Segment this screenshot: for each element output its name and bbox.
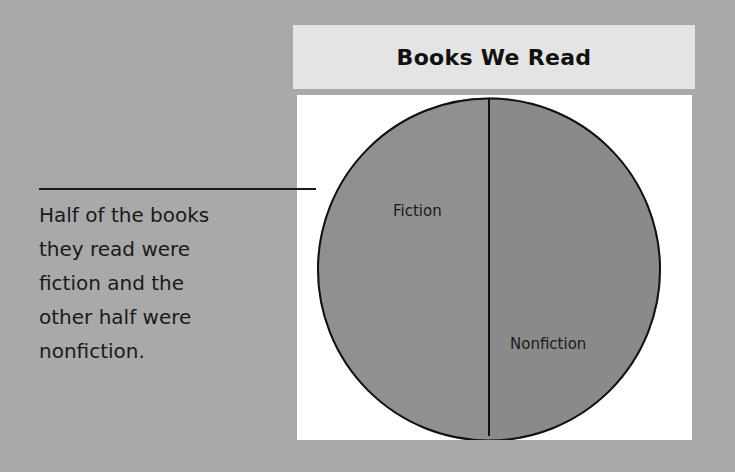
caption-line: nonfiction. — [39, 334, 289, 368]
pie-slice-fiction — [317, 98, 489, 441]
slice-label-fiction: Fiction — [393, 202, 442, 220]
caption-text: Half of the books they read were fiction… — [39, 198, 289, 368]
chart-title-banner: Books We Read — [293, 25, 695, 89]
chart-panel: Fiction Nonfiction — [297, 95, 692, 440]
caption-line: they read were — [39, 232, 289, 266]
pie-chart — [297, 95, 692, 440]
caption-line: other half were — [39, 300, 289, 334]
pie-slice-nonfiction — [489, 98, 661, 441]
chart-title: Books We Read — [397, 45, 592, 70]
caption-line: fiction and the — [39, 266, 289, 300]
caption-line: Half of the books — [39, 198, 289, 232]
slice-label-nonfiction: Nonfiction — [510, 335, 586, 353]
callout-line — [39, 188, 316, 190]
